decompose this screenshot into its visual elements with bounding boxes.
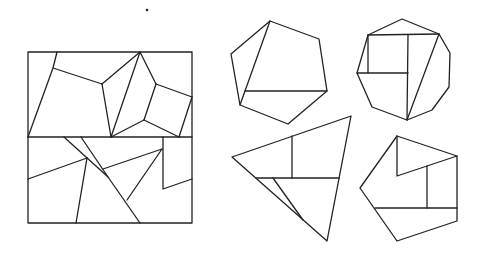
square-cut-line [163,137,192,189]
pentagon-shape [360,136,457,241]
square-cut-line [140,52,156,84]
square-cut-line [127,149,162,200]
square-cut-line [64,137,140,223]
dissection-diagram [0,0,479,255]
square-shape [28,52,192,223]
pentagon-outline [360,136,457,241]
triangle-shape [232,116,351,241]
octagon-cut-line [368,34,439,35]
square-cut-line [179,97,192,137]
square-cut-line [144,120,179,137]
square-cut-line [76,158,87,223]
octagon-shape [357,19,450,120]
square-cut-line [156,84,192,97]
square-cut-line [102,84,111,137]
square-cut-line [28,52,57,137]
square-cut-line [103,149,162,169]
square-cut-line [28,158,87,179]
heptagon-shape [231,21,327,124]
octagon-cut-line [407,35,408,120]
triangle-cut-line [273,178,303,220]
heptagon-outline [231,21,327,124]
stray-dot [146,9,149,12]
square-cut-line [53,68,102,84]
square-cut-line [144,84,156,120]
